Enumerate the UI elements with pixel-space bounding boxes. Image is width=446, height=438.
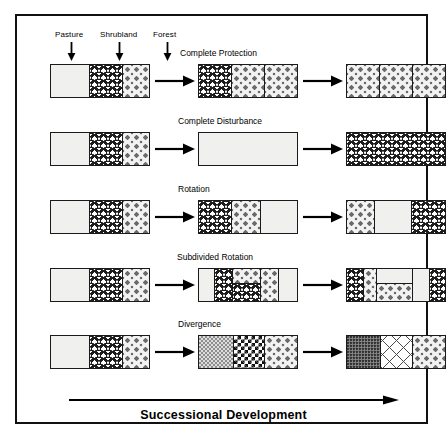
- segment-shrubland: [90, 201, 122, 233]
- segment-divergent-b: [234, 336, 264, 368]
- subsegment-shrubland: [233, 284, 259, 301]
- row-complete-protection: Complete Protection: [17, 48, 430, 114]
- segment-pasture: [51, 269, 90, 301]
- figure-frame: Pasture Shrubland Forest Complete Protec…: [15, 14, 428, 424]
- segment-divergent-c: [347, 336, 381, 368]
- row-divergence: Divergence: [17, 319, 430, 385]
- stage-box-middle: [198, 335, 298, 369]
- row-title-rotation: Rotation: [178, 184, 210, 194]
- subsegment-forest: [377, 284, 411, 301]
- stage-box-middle: [198, 132, 298, 166]
- stage-box-final: [346, 64, 446, 98]
- segment-divergent-d: [381, 336, 412, 368]
- segment-shrubland: [412, 201, 445, 233]
- segment-pasture: [279, 269, 297, 301]
- segment-forest: [123, 201, 149, 233]
- segment-pasture: [413, 269, 431, 301]
- segment-shrubland: [199, 201, 232, 233]
- right-arrow-icon-4a: [155, 278, 195, 292]
- segment-forest: [347, 201, 375, 233]
- segment-pasture: [51, 65, 90, 97]
- segment-pasture: [375, 201, 411, 233]
- stage-box-final: [346, 200, 446, 234]
- long-right-arrow-icon: [69, 394, 399, 406]
- segment-split: [233, 269, 260, 301]
- stage-box-initial: [50, 132, 150, 166]
- segment-shrubland: [90, 65, 122, 97]
- segment-pasture: [261, 201, 297, 233]
- segment-pasture: [51, 336, 90, 368]
- stage-box-initial: [50, 335, 150, 369]
- right-arrow-icon-3a: [155, 210, 195, 224]
- segment-pasture: [199, 269, 215, 301]
- segment-pasture: [51, 133, 90, 165]
- segment-divergent-a: [199, 336, 234, 368]
- segment-forest: [123, 336, 149, 368]
- stage-box-middle: [198, 268, 298, 302]
- row-rotation: Rotation: [17, 184, 430, 250]
- stage-box-final: [346, 268, 446, 302]
- segment-forest: [123, 269, 149, 301]
- row-title-divergence: Divergence: [178, 319, 221, 329]
- segment-split: [377, 269, 412, 301]
- segment-forest: [261, 269, 280, 301]
- stage-box-middle: [198, 64, 298, 98]
- segment-shrubland: [90, 336, 122, 368]
- stage-box-initial: [50, 268, 150, 302]
- row-title-complete-disturbance: Complete Disturbance: [178, 116, 262, 126]
- subsegment-forest: [233, 269, 259, 284]
- segment-forest: [123, 65, 149, 97]
- right-arrow-icon-1a: [155, 74, 195, 88]
- segment-forest: [265, 65, 297, 97]
- stage-box-initial: [50, 200, 150, 234]
- right-arrow-icon-4b: [303, 278, 343, 292]
- stage-box-final: [346, 335, 446, 369]
- segment-shrubland: [347, 269, 364, 301]
- right-arrow-icon-2b: [303, 142, 343, 156]
- segment-forest: [364, 269, 378, 301]
- legend-label-pasture: Pasture: [55, 30, 83, 39]
- segment-forest: [232, 65, 264, 97]
- figure-caption: Successional Development: [17, 408, 430, 422]
- segment-shrubland: [199, 65, 232, 97]
- right-arrow-icon-3b: [303, 210, 343, 224]
- segment-forest: [413, 65, 445, 97]
- segment-forest: [380, 65, 412, 97]
- stage-box-final: [346, 132, 446, 166]
- row-subdivided-rotation: Subdivided Rotation: [17, 252, 430, 318]
- subsegment-pasture: [377, 269, 411, 284]
- stage-box-middle: [198, 200, 298, 234]
- segment-forest: [413, 336, 445, 368]
- segment-shrubland: [90, 133, 122, 165]
- row-title-complete-protection: Complete Protection: [180, 48, 257, 58]
- legend-label-forest: Forest: [153, 30, 176, 39]
- segment-pasture: [51, 201, 90, 233]
- right-arrow-icon-5b: [303, 345, 343, 359]
- segment-shrubland: [430, 269, 445, 301]
- segment-pasture: [199, 133, 297, 165]
- segment-shrubland: [90, 269, 122, 301]
- row-complete-disturbance: Complete Disturbance: [17, 116, 430, 182]
- segment-forest: [265, 336, 297, 368]
- segment-forest: [347, 65, 380, 97]
- stage-box-initial: [50, 64, 150, 98]
- segment-shrubland: [347, 133, 445, 165]
- segment-forest: [232, 201, 260, 233]
- segment-forest: [123, 133, 149, 165]
- segment-shrubland: [215, 269, 234, 301]
- right-arrow-icon-5a: [155, 345, 195, 359]
- row-title-subdivided-rotation: Subdivided Rotation: [177, 252, 253, 262]
- right-arrow-icon-2a: [155, 142, 195, 156]
- legend-label-shrubland: Shrubland: [100, 30, 137, 39]
- right-arrow-icon-1b: [303, 74, 343, 88]
